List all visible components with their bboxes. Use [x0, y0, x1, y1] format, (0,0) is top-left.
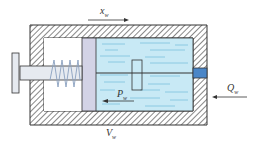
fluid-chamber	[96, 38, 193, 111]
pressure-label: Pw	[117, 89, 127, 101]
flow-arrow	[212, 95, 247, 99]
inlet-port	[193, 68, 207, 78]
hydraulic-cylinder-diagram	[0, 0, 257, 145]
piston	[82, 38, 96, 111]
displacement-label: xw	[100, 6, 108, 18]
volume-label: Vw	[106, 128, 116, 140]
end-plate	[12, 53, 19, 93]
displacement-arrow	[88, 18, 129, 22]
flow-label: Qw	[227, 83, 238, 95]
